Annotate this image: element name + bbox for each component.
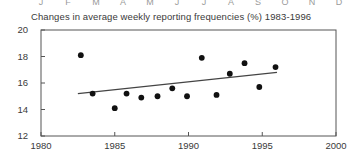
chart-figure: JFMAMJJASOND Changes in average weekly r… [0, 0, 353, 163]
x-axis-tick-label: 1990 [169, 141, 209, 151]
data-point [155, 93, 161, 99]
y-axis-tick-label: 16 [4, 78, 28, 88]
data-point [184, 93, 190, 99]
data-point [112, 105, 118, 111]
data-point [214, 92, 220, 98]
data-point [242, 60, 248, 66]
x-axis-tick-label: 1995 [242, 141, 282, 151]
data-points [78, 52, 279, 111]
data-point [199, 55, 205, 61]
data-point [124, 91, 130, 97]
data-point [273, 64, 279, 70]
x-axis-tick-label: 2000 [316, 141, 353, 151]
data-point [78, 52, 84, 58]
y-axis-tick-label: 20 [4, 25, 28, 35]
data-point [90, 91, 96, 97]
x-axis-tick-label: 1985 [95, 141, 135, 151]
trend-line [78, 72, 277, 93]
y-axis-tick-label: 18 [4, 52, 28, 62]
y-axis-tick-label: 14 [4, 105, 28, 115]
chart-axes [41, 30, 336, 136]
x-axis-tick-label: 1980 [21, 141, 61, 151]
data-point [138, 95, 144, 101]
data-point [169, 85, 175, 91]
chart-plot-area [0, 0, 353, 163]
y-axis-tick-label: 12 [4, 131, 28, 141]
data-point [256, 84, 262, 90]
data-point [227, 71, 233, 77]
chart-tick-marks [41, 30, 336, 136]
